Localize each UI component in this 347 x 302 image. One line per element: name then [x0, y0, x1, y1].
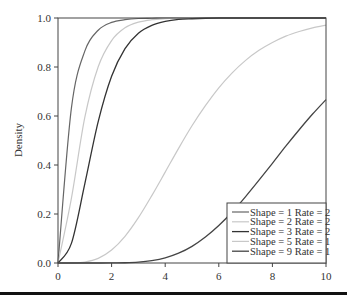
x-tick-label: 4: [162, 270, 168, 282]
chart: 0246810 0.00.20.40.60.81.0 Density Shape…: [0, 0, 347, 302]
y-tick-label: 0.8: [37, 61, 51, 73]
y-tick-label: 0.0: [37, 257, 51, 269]
legend: Shape = 1 Rate = 2Shape = 2 Rate = 2Shap…: [227, 203, 330, 263]
x-tick-label: 2: [109, 270, 115, 282]
x-tick-label: 10: [321, 270, 333, 282]
y-axis-label: Density: [12, 122, 24, 157]
legend-label: Shape = 9 Rate = 1: [250, 246, 330, 257]
x-tick-label: 8: [270, 270, 276, 282]
y-axis: 0.00.20.40.60.81.0: [37, 12, 58, 269]
x-tick-label: 0: [55, 270, 61, 282]
y-tick-label: 0.6: [37, 110, 51, 122]
bottom-rule: [0, 292, 347, 295]
y-tick-label: 0.4: [37, 159, 51, 171]
y-tick-label: 0.2: [37, 208, 51, 220]
x-axis: 0246810: [55, 263, 332, 282]
y-tick-label: 1.0: [37, 12, 51, 24]
x-tick-label: 6: [216, 270, 222, 282]
